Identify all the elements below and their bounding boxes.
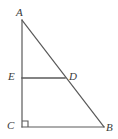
vertex-label-c: C [7,120,14,131]
geometry-canvas [0,0,118,139]
right-angle-marker-c [22,121,28,127]
vertex-label-a: A [16,7,23,18]
segment-ab [22,20,104,127]
geometry-figure: A E D C B [0,0,118,139]
vertex-label-d: D [69,71,77,82]
vertex-label-b: B [106,122,113,133]
vertex-label-e: E [8,71,15,82]
